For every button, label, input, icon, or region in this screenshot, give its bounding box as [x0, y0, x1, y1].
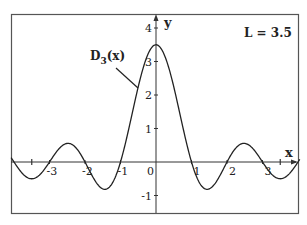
y-tick-label: 2	[145, 89, 152, 102]
axes	[11, 14, 298, 213]
y-axis-label: y	[163, 15, 172, 30]
x-tick-label: -3	[47, 165, 58, 178]
svg-text:D3(x): D3(x)	[90, 49, 125, 66]
y-tick-label: 4	[145, 22, 152, 35]
curve-label: D3(x)	[90, 49, 138, 88]
x-tick-labels: -3-2-10123	[47, 165, 272, 178]
x-axis-label: x	[285, 145, 293, 160]
curve-label-main: D	[90, 49, 100, 63]
curve-label-suffix: (x)	[107, 49, 126, 63]
chart: -3-2-10123 -11234 x y L = 3.5 D3(x)	[0, 0, 307, 225]
x-tick-label: 0	[147, 165, 154, 178]
y-tick-label: -1	[141, 190, 152, 203]
x-tick-label: 2	[229, 165, 236, 178]
y-tick-label: 1	[145, 123, 152, 136]
parameter-annotation: L = 3.5	[244, 26, 292, 40]
curve-label-pointer	[116, 68, 138, 88]
